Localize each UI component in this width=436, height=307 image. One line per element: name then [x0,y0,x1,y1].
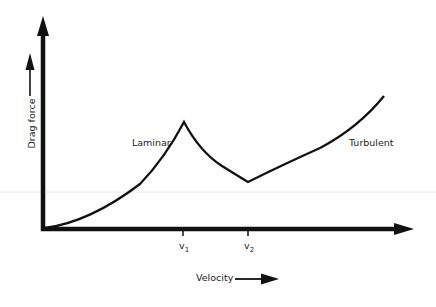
diagram-canvas [0,0,436,307]
x-axis [41,223,414,235]
tick-v1-main: v [179,240,185,251]
tick-label-v2: v2 [244,240,254,251]
x-axis-label: Velocity [196,272,233,283]
turbulent-label: Turbulent [349,137,394,148]
y-axis [37,16,49,231]
y-axis-label: Drag force [26,99,37,149]
drag-curve [45,96,384,228]
tick-label-v1: v1 [179,240,189,251]
drag-force-diagram: Drag force Velocity Laminar Turbulent v1… [0,0,436,307]
x-axis-arrowhead-icon [394,223,414,235]
tick-v2-subscript: 2 [250,246,254,254]
drag-force-arrow-icon [26,53,35,96]
velocity-arrow-icon [235,274,279,285]
tick-v1-subscript: 1 [185,246,189,254]
y-axis-arrowhead-icon [37,16,49,36]
laminar-label: Laminar [132,137,171,148]
tick-v2-main: v [244,240,250,251]
